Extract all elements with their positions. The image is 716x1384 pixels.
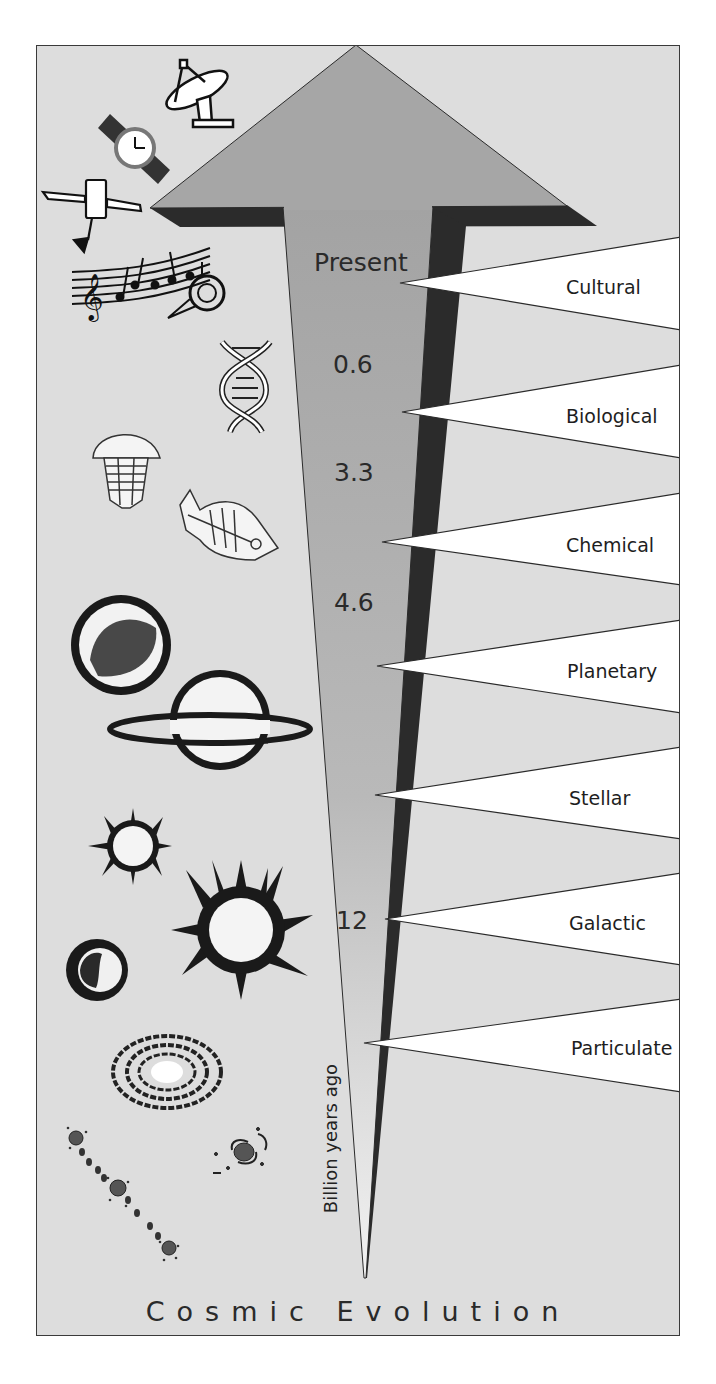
time-mark-3-3: 3.3 — [334, 458, 374, 487]
time-mark-12: 12 — [336, 906, 368, 935]
planet-icon — [71, 595, 171, 695]
large-star-icon — [171, 860, 313, 1000]
era-label-stellar: Stellar — [569, 787, 630, 809]
era-label-biological: Biological — [566, 405, 658, 427]
era-label-particulate: Particulate — [571, 1037, 672, 1059]
diagram-title: Cosmic Evolution — [0, 1296, 716, 1327]
era-label-planetary: Planetary — [567, 660, 657, 682]
time-mark-0-6: 0.6 — [333, 350, 373, 379]
svg-text:𝄞: 𝄞 — [80, 273, 104, 322]
axis-label: Billion years ago — [320, 1059, 341, 1219]
wristwatch-icon — [98, 114, 170, 184]
time-mark-present: Present — [314, 248, 408, 277]
fish-fossil-icon — [180, 490, 278, 560]
dna-helix-icon — [222, 342, 270, 432]
music-and-horn-icon: 𝄞 — [72, 248, 224, 322]
particle-chain-icon — [67, 1127, 180, 1262]
radio-telescope-icon — [161, 60, 233, 127]
era-label-galactic: Galactic — [569, 912, 646, 934]
time-mark-4-6: 4.6 — [334, 588, 374, 617]
small-galaxy-icon — [213, 1128, 266, 1174]
era-label-cultural: Cultural — [566, 276, 641, 298]
wedge-stellar — [375, 747, 681, 839]
spiral-galaxy-icon — [113, 1036, 221, 1108]
diagram-canvas: 𝄞 — [0, 0, 716, 1384]
era-label-chemical: Chemical — [566, 534, 654, 556]
small-star-icon — [88, 808, 172, 885]
trilobite-icon — [93, 435, 160, 508]
dark-planet-icon — [66, 939, 128, 1001]
satellite-icon — [43, 180, 141, 252]
